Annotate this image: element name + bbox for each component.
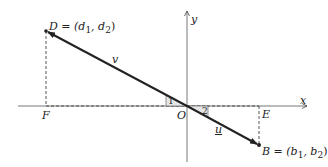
point-B-label: B = (b1, b2) — [262, 146, 327, 160]
point-O — [186, 105, 188, 107]
angle-1-label: 1 — [168, 97, 174, 106]
point-E-label: E — [262, 109, 270, 120]
vector-v-label: v — [112, 54, 118, 65]
y-axis-label: y — [191, 14, 197, 25]
point-F-label: F — [42, 110, 50, 121]
point-B — [257, 143, 261, 147]
point-D-label: D = (d1, d2) — [49, 21, 115, 35]
origin-label: O — [177, 110, 186, 121]
point-D — [44, 29, 48, 33]
x-axis-label: x — [300, 95, 306, 106]
angle-2-label: 2 — [202, 107, 208, 116]
vector-u-label: u — [215, 124, 222, 135]
vector-v — [48, 32, 187, 106]
